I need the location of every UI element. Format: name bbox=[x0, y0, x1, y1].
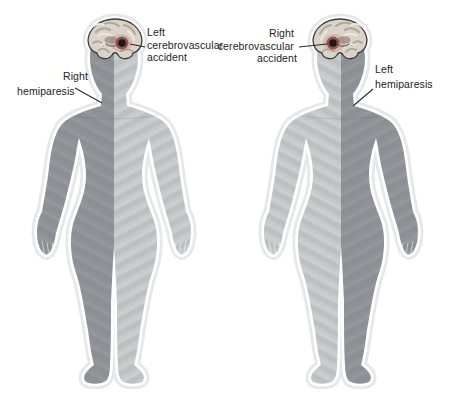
figure-left-body bbox=[37, 19, 191, 384]
hemiparesis-diagram: Left cerebrovascular accident Right hemi… bbox=[0, 0, 455, 405]
label-left-hemiparesis: Left hemiparesis bbox=[375, 63, 433, 90]
label-right-cva: Right cerebrovascular accident bbox=[218, 27, 297, 64]
label-left-cva: Left cerebrovascular accident bbox=[147, 26, 226, 63]
label-right-hemiparesis: Right hemiparesis bbox=[17, 70, 91, 97]
